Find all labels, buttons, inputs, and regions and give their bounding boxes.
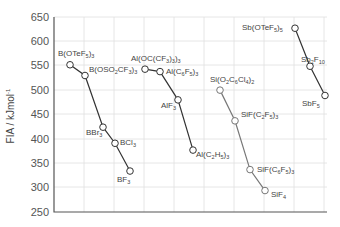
label-sif4: SiF4	[271, 190, 286, 200]
y-tick: 550	[31, 59, 49, 71]
chart-svg: 650 600 550 500 450 400 350 300 250 FIA …	[0, 0, 340, 227]
data-point-marker	[67, 61, 74, 68]
y-axis-title: FIA / kJmol-1	[5, 88, 16, 143]
label-al-c6f5: Al(C6F5)3	[166, 67, 198, 77]
data-point-marker	[112, 140, 119, 147]
gridlines	[54, 17, 327, 212]
label-si-o2c6cl4: Si(O2C6Cl4)2	[210, 75, 254, 85]
series-line-boron	[70, 65, 130, 171]
axes	[54, 17, 327, 212]
label-bcl3: BCl3	[120, 138, 136, 148]
y-tick: 350	[31, 157, 49, 169]
label-bf3: BF3	[117, 175, 130, 185]
series-line-silicon	[220, 90, 265, 190]
label-al-oc-cf3: Al(OC(CF3)3)3	[131, 54, 181, 64]
data-point-marker	[175, 97, 182, 104]
label-bbr3: BBr3	[86, 128, 102, 138]
y-tick-labels: 650 600 550 500 450 400 350 300 250	[31, 11, 49, 218]
data-point-marker	[142, 66, 149, 73]
label-sb-otef5: Sb(OTeF5)5	[242, 23, 283, 33]
y-tick: 500	[31, 84, 49, 96]
data-point-marker	[322, 92, 329, 99]
label-b-oso2cf3: B(OSO2CF3)3	[89, 65, 137, 75]
data-point-marker	[157, 68, 164, 75]
data-point-marker	[232, 118, 239, 125]
data-point-marker	[262, 187, 269, 194]
data-point-marker	[100, 124, 107, 131]
y-tick: 450	[31, 108, 49, 120]
y-tick: 250	[31, 206, 49, 218]
y-tick: 650	[31, 11, 49, 23]
data-point-marker	[82, 72, 89, 79]
data-point-marker	[292, 25, 299, 32]
y-tick: 400	[31, 133, 49, 145]
label-sbf5: SbF5	[302, 99, 320, 109]
data-point-marker	[127, 168, 134, 175]
y-tick: 600	[31, 35, 49, 47]
fia-chart: 650 600 550 500 450 400 350 300 250 FIA …	[0, 0, 340, 227]
data-point-marker	[217, 87, 224, 94]
data-point-marker	[247, 166, 254, 173]
y-tick: 300	[31, 181, 49, 193]
label-sif-c2f5: SiF(C2F5)3	[241, 110, 278, 120]
label-sb2f10: Sb2F10	[301, 55, 325, 65]
label-b-otef5: B(OTeF5)3	[58, 49, 94, 59]
label-al-c2h5: Al(C2H5)3	[196, 150, 229, 160]
label-sif-c6f5: SiF(C6F5)3	[257, 165, 294, 175]
